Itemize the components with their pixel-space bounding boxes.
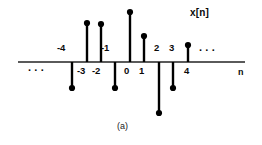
tick-label-neg4: -4 bbox=[57, 43, 65, 53]
stem-n-2 bbox=[156, 62, 162, 116]
stem-marker-2 bbox=[156, 110, 162, 116]
tick-label-4: 4 bbox=[184, 66, 189, 76]
stem-n-1 bbox=[141, 33, 147, 62]
stem-marker--2 bbox=[98, 21, 104, 27]
stem-n--4 bbox=[69, 62, 75, 91]
axis-label-n: n bbox=[238, 68, 244, 77]
tick-label-neg3: -3 bbox=[77, 66, 85, 76]
signal-label: x[n] bbox=[190, 8, 209, 18]
figure-stem-plot: -4 -3 -2 -1 0 1 2 3 4 · · · · · · x[n] n… bbox=[0, 0, 262, 145]
tick-label-2: 2 bbox=[154, 43, 159, 53]
figure-caption: (a) bbox=[117, 122, 128, 131]
stem-n-4 bbox=[185, 42, 191, 62]
tick-label-neg2: -2 bbox=[92, 66, 100, 76]
stem-marker-3 bbox=[170, 85, 176, 91]
stem-marker--3 bbox=[84, 20, 90, 26]
tick-label-1: 1 bbox=[139, 66, 144, 76]
right-ellipsis: · · · bbox=[199, 45, 215, 56]
stem-n--3 bbox=[84, 20, 90, 62]
stem-n-0 bbox=[127, 9, 133, 62]
stem-marker-0 bbox=[127, 9, 133, 15]
tick-label-3: 3 bbox=[169, 43, 174, 53]
left-ellipsis: · · · bbox=[28, 65, 44, 76]
stem-n--1 bbox=[112, 62, 118, 91]
stem-n-3 bbox=[170, 62, 176, 91]
tick-label-0: 0 bbox=[124, 66, 129, 76]
stem-marker-4 bbox=[185, 42, 191, 48]
stem-marker-1 bbox=[141, 33, 147, 39]
stem-marker--1 bbox=[112, 85, 118, 91]
stem-marker--4 bbox=[69, 85, 75, 91]
tick-label-neg1: -1 bbox=[101, 43, 109, 53]
